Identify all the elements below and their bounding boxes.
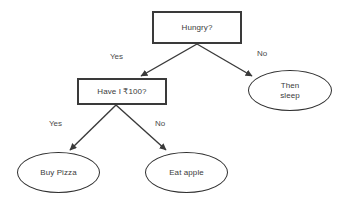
node-label-money: Have I ₹100? (97, 87, 146, 97)
edge-hungry-no (197, 44, 252, 76)
terminal-node-sleep[interactable]: Then sleep (248, 70, 332, 111)
node-label-sleep: Then sleep (280, 81, 300, 101)
edge-label-hungry-no: No (257, 49, 267, 59)
terminal-node-pizza[interactable]: Buy Pizza (17, 152, 100, 193)
decision-node-money[interactable]: Have I ₹100? (77, 78, 167, 105)
flowchart-canvas: Hungry? Have I ₹100? Then sleep Buy Pizz… (0, 0, 343, 211)
edge-label-money-yes: Yes (49, 119, 62, 129)
edge-label-hungry-yes: Yes (110, 52, 123, 62)
terminal-node-apple[interactable]: Eat apple (145, 152, 228, 193)
node-label-apple: Eat apple (169, 168, 204, 178)
edge-label-money-no: No (155, 119, 165, 129)
edge-hungry-yes (141, 44, 197, 76)
node-label-hungry: Hungry? (182, 23, 213, 33)
edge-money-yes (70, 105, 116, 150)
decision-node-hungry[interactable]: Hungry? (152, 11, 242, 44)
node-label-pizza: Buy Pizza (40, 168, 76, 178)
